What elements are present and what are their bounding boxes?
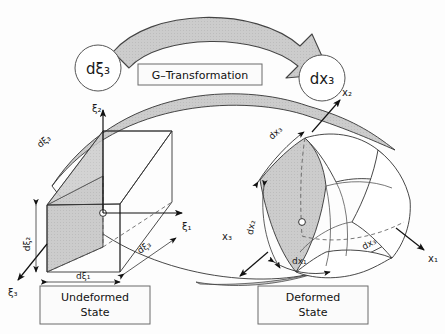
undeformed-caption-line2: State (80, 306, 109, 319)
axis-xi1-label: ξ₁ (182, 221, 192, 232)
axis-x1: x₁ (396, 228, 438, 264)
dim-dxi1: dξ₁ (47, 271, 120, 282)
deformed-caption-line2: State (298, 306, 327, 319)
dim-dxi2-label: dξ₂ (22, 236, 32, 251)
axis-xi2-label: ξ₂ (92, 103, 102, 114)
axis-x3: x₃ (222, 231, 268, 276)
deformed-caption-box: Deformed State (258, 286, 368, 324)
g-transformation-label: G–Transformation (152, 69, 249, 82)
undeformed-element: ξ₁ ξ₂ ξ₃ dξ₂ dξ₁ (8, 103, 192, 298)
dim-dxi1-label: dξ₁ (76, 271, 91, 281)
dim-dx2-label: dx₂ (245, 219, 257, 236)
dim-dx1-label: dx₁ (292, 256, 307, 266)
undeformed-caption-box: Undeformed State (40, 286, 150, 324)
dim-dx3-top-label: dx₃ (267, 124, 285, 141)
axis-x3-label: x₃ (222, 231, 232, 242)
deformed-center-point (299, 219, 306, 226)
source-bubble-label: dξ₃ (86, 60, 110, 78)
g-transformation-label-box: G–Transformation (138, 64, 262, 85)
target-bubble-label: dx₃ (310, 70, 334, 88)
dim-dxi3-top: dξ₃ (35, 133, 53, 150)
source-bubble: dξ₃ (75, 45, 121, 91)
dim-dxi2: dξ₂ (22, 205, 36, 272)
deformed-caption-line1: Deformed (286, 291, 341, 304)
axis-x1-label: x₁ (428, 253, 438, 264)
axis-xi3-label: ξ₃ (8, 287, 18, 298)
figure-root: dξ₃ dx₃ G–Transformation (0, 0, 445, 334)
axis-x2-label: x₂ (342, 87, 352, 98)
dim-dxi3-top-label: dξ₃ (35, 133, 53, 150)
diagram-canvas: dξ₃ dx₃ G–Transformation (0, 0, 445, 334)
undeformed-caption-line1: Undeformed (61, 291, 129, 304)
target-bubble: dx₃ (299, 55, 345, 101)
